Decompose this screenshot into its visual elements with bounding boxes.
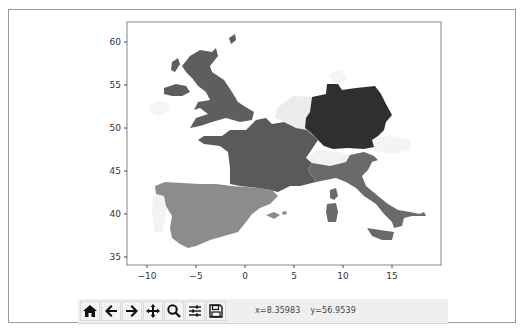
arrow-right-icon [124,303,140,319]
svg-text:40: 40 [110,209,122,219]
subplots-button[interactable] [185,301,205,321]
svg-text:−5: −5 [189,271,202,281]
cursor-y: y=56.9539 [310,306,355,315]
svg-text:55: 55 [110,80,121,90]
cursor-x: x=8.35983 [255,306,300,315]
sardinia-region [326,203,338,222]
zoom-button[interactable] [164,301,184,321]
sliders-icon [187,303,203,319]
svg-text:5: 5 [291,271,297,281]
pan-button[interactable] [143,301,163,321]
back-button[interactable] [101,301,121,321]
save-button[interactable] [206,301,226,321]
home-icon [82,303,98,319]
floppy-disk-icon [208,303,224,319]
svg-text:35: 35 [110,252,121,262]
svg-text:−10: −10 [138,271,157,281]
magnifier-icon [166,303,182,319]
home-button[interactable] [80,301,100,321]
svg-text:45: 45 [110,166,121,176]
arrow-left-icon [103,303,119,319]
map-plot[interactable]: 60 55 50 45 40 35 −10 −5 0 5 10 15 [0,0,526,295]
move-icon [145,303,161,319]
forward-button[interactable] [122,301,142,321]
svg-text:10: 10 [337,271,349,281]
cursor-coordinates: x=8.35983y=56.9539 [255,306,366,315]
svg-text:60: 60 [110,37,122,47]
svg-text:50: 50 [110,123,122,133]
svg-text:0: 0 [242,271,248,281]
svg-text:15: 15 [386,271,397,281]
y-axis: 60 55 50 45 40 35 [110,37,127,262]
x-axis: −10 −5 0 5 10 15 [138,265,398,281]
